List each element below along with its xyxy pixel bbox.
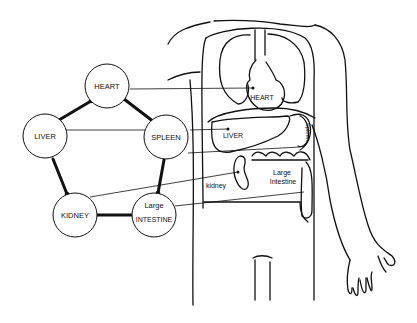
body-label-heart: HEART [250,94,274,101]
body-label-spleen: Spleen [305,123,311,142]
edge-spleen-large-intestine [158,160,164,193]
body-label-liver: LIVER [223,132,243,139]
body-label-kidney: kidney [206,182,227,190]
connector-liver [190,129,228,130]
node-liver-label: LIVER [34,132,56,141]
node-spleen-label: SPLEEN [151,133,181,142]
edge-kidney-liver [53,159,67,194]
diagram-canvas: HEART LIVER SPLEEN KIDNEY Large INTESTIN… [0,0,417,323]
diagram-svg: HEART LIVER SPLEEN KIDNEY Large INTESTIN… [0,0,417,323]
connector-spleen [188,147,300,153]
node-large-intestine [132,193,176,237]
node-heart-label: HEART [94,82,120,91]
edge-heart-spleen [124,99,154,122]
connector-heart [130,88,252,89]
node-large-intestine-label-1: Large [144,201,163,210]
node-kidney-label: KIDNEY [61,211,89,220]
body-outline [168,20,395,305]
connector-large-intestine [175,192,304,206]
body-label-large-intestine-2: Intestine [270,178,297,185]
edge-liver-heart [59,101,91,120]
body-label-large-intestine-1: Large [273,169,291,177]
node-large-intestine-label-2: INTESTINE [136,216,173,223]
